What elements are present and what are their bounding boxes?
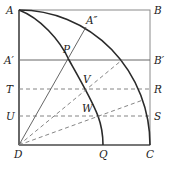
label-d: D: [13, 148, 23, 160]
quadratrix-diagram: A B C D A′ B′ T R U S P A″ V W Q: [0, 0, 170, 171]
label-b: B: [153, 4, 162, 16]
label-v: V: [83, 73, 92, 85]
label-a-prime: A′: [3, 54, 15, 66]
label-s: S: [154, 110, 161, 122]
label-a-double-prime: A″: [85, 14, 98, 26]
label-p: P: [62, 43, 71, 55]
line-d-v: [19, 60, 122, 145]
label-w: W: [82, 102, 94, 114]
label-u: U: [6, 110, 16, 122]
line-d-a2: [19, 27, 86, 145]
label-a: A: [5, 4, 14, 16]
label-r: R: [153, 83, 162, 95]
label-t: T: [6, 83, 14, 95]
label-q: Q: [99, 148, 108, 161]
label-b-prime: B′: [153, 54, 165, 66]
line-d-w: [19, 100, 143, 145]
label-c: C: [146, 148, 154, 160]
